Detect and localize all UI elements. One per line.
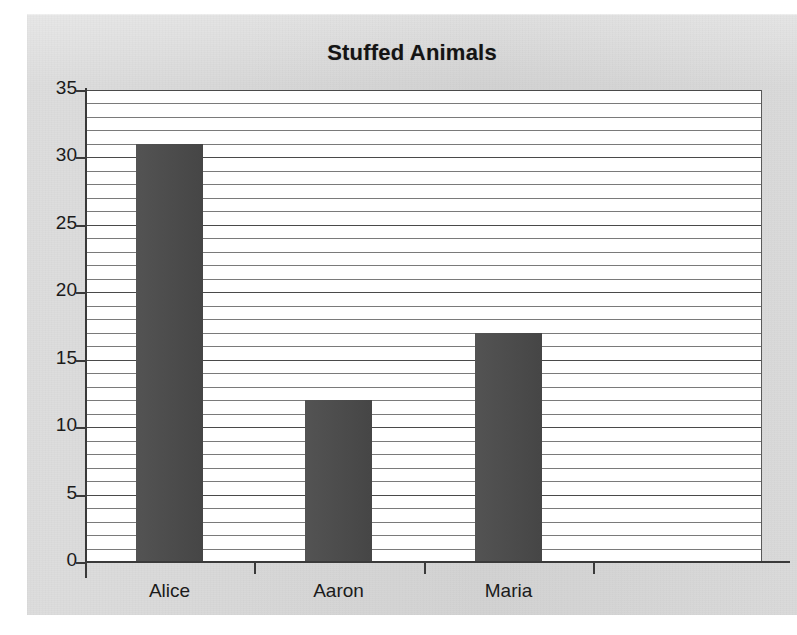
x-tick-label-maria: Maria xyxy=(424,580,593,602)
y-tick-label: 0 xyxy=(33,549,77,571)
scanned-page: Stuffed Animals 05101520253035 AliceAaro… xyxy=(0,0,797,635)
bar-maria[interactable] xyxy=(475,333,542,562)
y-tick-mark xyxy=(76,225,86,227)
gridline-minor xyxy=(85,117,762,118)
gridline-minor xyxy=(85,130,762,131)
y-tick-label: 10 xyxy=(33,414,77,436)
gridline-minor xyxy=(85,103,762,104)
y-tick-mark xyxy=(76,562,86,564)
y-tick-mark xyxy=(76,495,86,497)
x-tick-mark xyxy=(593,563,595,574)
chart-title: Stuffed Animals xyxy=(27,40,797,66)
bar-aaron[interactable] xyxy=(305,400,372,562)
chart-frame: Stuffed Animals 05101520253035 AliceAaro… xyxy=(27,14,797,615)
y-tick-label: 25 xyxy=(33,212,77,234)
y-tick-mark xyxy=(76,427,86,429)
y-tick-mark xyxy=(76,292,86,294)
plot-area xyxy=(85,90,762,562)
y-axis-labels: 05101520253035 xyxy=(27,14,77,615)
y-tick-mark xyxy=(76,360,86,362)
plot-right-border xyxy=(761,90,762,562)
y-tick-mark xyxy=(76,157,86,159)
y-tick-mark xyxy=(76,90,86,92)
x-axis-line xyxy=(85,561,790,563)
bar-alice[interactable] xyxy=(136,144,203,562)
y-tick-label: 20 xyxy=(33,279,77,301)
x-tick-label-alice: Alice xyxy=(85,580,254,602)
y-axis-line xyxy=(85,88,87,578)
y-tick-label: 35 xyxy=(33,77,77,99)
gridline-major xyxy=(85,90,762,91)
x-tick-label-aaron: Aaron xyxy=(254,580,423,602)
y-tick-label: 15 xyxy=(33,347,77,369)
x-tick-mark xyxy=(254,563,256,574)
y-tick-label: 5 xyxy=(33,482,77,504)
y-tick-label: 30 xyxy=(33,144,77,166)
x-tick-mark xyxy=(424,563,426,574)
